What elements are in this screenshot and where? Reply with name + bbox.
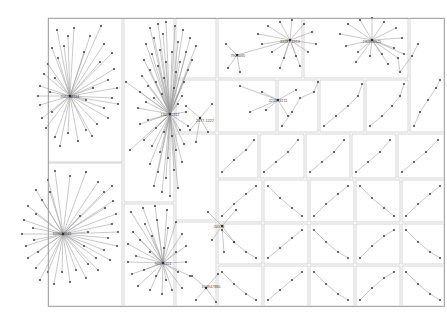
graph-node (393, 271, 395, 273)
graph-node (313, 229, 315, 231)
graph-node (111, 185, 113, 187)
graph-node (174, 25, 176, 27)
graph-node (77, 140, 79, 142)
graph-node (395, 27, 397, 29)
graph-node (187, 69, 189, 71)
graph-node (347, 185, 349, 187)
graph-node (32, 227, 34, 229)
graph-node (287, 115, 289, 117)
graph-node (437, 139, 439, 141)
graph-node (185, 261, 187, 263)
graph-node (233, 241, 235, 243)
graph-node (117, 231, 119, 233)
graph-node (145, 43, 147, 45)
graph-node (383, 21, 385, 23)
graph-node (153, 37, 155, 39)
graph-node (91, 135, 93, 137)
graph-node (399, 71, 401, 73)
graph-node (211, 103, 213, 105)
graph-node (181, 233, 183, 235)
graph-node (56, 29, 58, 31)
graph-node (185, 245, 187, 247)
graph-node (323, 125, 325, 127)
graph-node (185, 111, 187, 113)
graph-node (267, 257, 269, 259)
graph-node (27, 257, 29, 259)
graph-node (159, 151, 161, 153)
graph-node (387, 63, 389, 65)
graph-node (145, 101, 147, 103)
graph-node (255, 299, 257, 301)
cell-chain-r2 (320, 80, 364, 132)
graph-node (185, 51, 187, 53)
graph-node (291, 19, 293, 21)
graph-node (103, 249, 105, 251)
graph-node (417, 203, 419, 205)
graph-node (299, 97, 301, 99)
graph-node (181, 95, 183, 97)
graph-node (161, 93, 163, 95)
graph-node (405, 215, 407, 217)
graph-node (439, 79, 441, 81)
graph-node (69, 281, 71, 283)
graph-node (171, 289, 173, 291)
graph-node (369, 55, 371, 57)
cell-chain-r19 (402, 224, 444, 264)
graph-node (154, 205, 156, 207)
graph-node (149, 69, 151, 71)
graph-node (173, 169, 175, 171)
graph-node (303, 23, 305, 25)
graph-node (112, 200, 114, 202)
graph-node (439, 185, 441, 187)
graph-node (249, 111, 251, 113)
graph-node (279, 21, 281, 23)
graph-node (321, 161, 323, 163)
graph-node (117, 103, 119, 105)
graph-node (401, 171, 403, 173)
graph-node (297, 139, 299, 141)
graph-node (171, 135, 173, 137)
graph-node (54, 136, 56, 138)
graph-node (361, 83, 363, 85)
graph-node (41, 117, 43, 119)
graph-node (83, 245, 85, 247)
graph-node (39, 104, 41, 106)
graph-node (381, 115, 383, 117)
graph-node (103, 191, 105, 193)
graph-node (371, 245, 373, 247)
graph-node (67, 132, 69, 134)
graph-node (287, 151, 289, 153)
graph-node (195, 45, 197, 47)
graph-node (271, 51, 273, 53)
hub-node-label: 230900525 (363, 40, 382, 44)
graph-node (245, 293, 247, 295)
graph-node (67, 35, 69, 37)
graph-node (85, 277, 87, 279)
graph-node (151, 53, 153, 55)
graph-node (155, 81, 157, 83)
graph-node (261, 43, 263, 45)
graph-node (371, 287, 373, 289)
graph-node (239, 85, 241, 87)
graph-node (263, 171, 265, 173)
graph-node (116, 245, 118, 247)
graph-node (233, 283, 235, 285)
graph-node (405, 271, 407, 273)
graph-node (369, 125, 371, 127)
graph-node (59, 145, 61, 147)
cell-chain-r5 (218, 134, 258, 178)
graph-node (167, 227, 169, 229)
graph-node (96, 123, 98, 125)
graph-node (127, 243, 129, 245)
screenshot-root: 201704234130791312792606533287 491923090… (0, 0, 447, 325)
graph-node (403, 53, 405, 55)
graph-node (35, 189, 37, 191)
graph-node (175, 149, 177, 151)
graph-node (233, 159, 235, 161)
graph-node (265, 109, 267, 111)
graph-node (109, 259, 111, 261)
graph-node (175, 221, 177, 223)
graph-node (257, 33, 259, 35)
graph-node (301, 229, 303, 231)
graph-node (49, 91, 51, 93)
